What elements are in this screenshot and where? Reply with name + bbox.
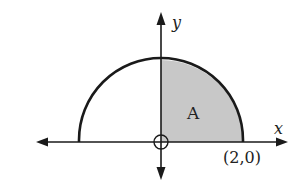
region-a-shading bbox=[161, 60, 243, 142]
y-axis-up-arrow-icon bbox=[157, 12, 166, 25]
x-axis-right-arrow-icon bbox=[276, 138, 288, 147]
x-axis-left-arrow-icon bbox=[36, 138, 48, 147]
region-label: A bbox=[186, 103, 200, 123]
y-axis-down-arrow-icon bbox=[157, 167, 166, 180]
semicircle-diagram: y x A (2,0) bbox=[0, 0, 295, 195]
point-label: (2,0) bbox=[223, 148, 261, 167]
x-axis-label: x bbox=[274, 119, 283, 138]
y-axis-label: y bbox=[171, 13, 182, 32]
